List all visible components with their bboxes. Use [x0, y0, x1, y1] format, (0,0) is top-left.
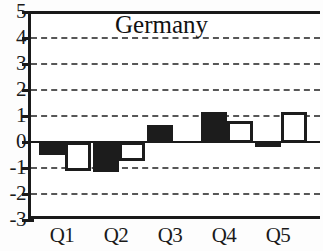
bar-q1-filled [39, 142, 65, 155]
bar-group-q1 [39, 14, 91, 216]
x-tick-label-q2: Q2 [104, 224, 129, 246]
x-tick-label-q5: Q5 [266, 224, 291, 246]
bar-q1-hollow [65, 142, 91, 171]
chart-figure: 5 4 3 2 1 0 -1 -2 -3 [0, 0, 323, 251]
plot-area [28, 11, 320, 219]
bar-group-q5 [255, 14, 307, 216]
chart-title: Germany [0, 11, 323, 38]
bar-q2-hollow [119, 142, 145, 161]
bar-group-q3 [147, 14, 199, 216]
x-tick-label-q1: Q1 [50, 224, 75, 246]
bar-q5-hollow [281, 112, 307, 143]
bar-q4-hollow [227, 121, 253, 143]
x-tick-label-q4: Q4 [212, 224, 237, 246]
bar-q3-filled [147, 125, 173, 143]
bar-group-q2 [93, 14, 145, 216]
x-tick-label-q3: Q3 [158, 224, 183, 246]
bar-q4-filled [201, 112, 227, 143]
bar-q5-filled [255, 142, 281, 147]
bar-group-q4 [201, 14, 253, 216]
bar-q2-filled [93, 142, 119, 172]
y-tick-mark [22, 219, 34, 222]
